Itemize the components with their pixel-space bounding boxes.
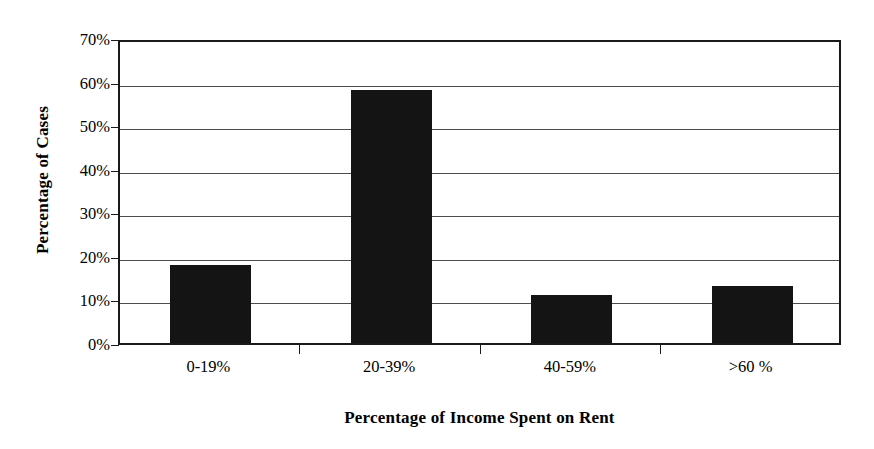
bar-chart-figure: Percentage of Cases 70%60%50%40%30%20%10… [0, 0, 874, 449]
y-tick-label: 0% [48, 337, 110, 354]
bar [170, 265, 251, 343]
x-axis-tick-labels: 0-19%20-39%40-59%>60 % [118, 358, 841, 384]
x-tick-mark [299, 345, 300, 354]
y-axis-tick-labels: 70%60%50%40%30%20%10%0% [48, 40, 110, 345]
x-tick-label: >60 % [660, 358, 841, 376]
y-tick-label: 70% [48, 32, 110, 49]
x-tick-mark [660, 345, 661, 354]
bars-layer [120, 42, 839, 343]
bar [351, 90, 432, 343]
y-tick-label: 60% [48, 75, 110, 92]
x-axis-title: Percentage of Income Spent on Rent [118, 408, 841, 428]
x-tick-label: 40-59% [480, 358, 661, 376]
y-tick-label: 40% [48, 162, 110, 179]
y-tick-label: 10% [48, 293, 110, 310]
x-axis-tick-marks [118, 345, 841, 354]
x-tick-label: 0-19% [118, 358, 299, 376]
y-tick-label: 30% [48, 206, 110, 223]
bar [531, 295, 612, 343]
x-tick-label: 20-39% [299, 358, 480, 376]
bar [712, 286, 793, 343]
x-tick-mark [480, 345, 481, 354]
y-tick-label: 20% [48, 250, 110, 267]
y-tick-label: 50% [48, 119, 110, 136]
plot-area [118, 40, 841, 345]
